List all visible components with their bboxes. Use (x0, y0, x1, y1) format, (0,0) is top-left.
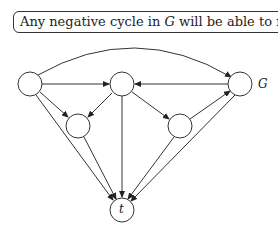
node-b (110, 72, 134, 96)
node-t-label: t (119, 202, 124, 216)
edge-a-d (40, 92, 68, 117)
node-e (168, 114, 192, 138)
edge-c-t (131, 95, 235, 201)
edge-b-d (88, 93, 112, 117)
edge-e-c (190, 91, 230, 119)
node-a (18, 72, 42, 96)
graph-label: G (258, 77, 268, 91)
graph-diagram (0, 0, 278, 235)
edge-d-t (84, 137, 116, 199)
edge-a-t (36, 95, 113, 200)
edge-b-e (132, 92, 169, 119)
edge-e-t (128, 137, 174, 199)
node-d (66, 114, 90, 138)
edge-a-c (38, 48, 231, 77)
node-c (228, 72, 252, 96)
